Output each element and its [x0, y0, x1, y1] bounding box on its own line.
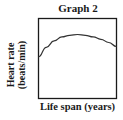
- heart-rate-curve: [39, 35, 117, 57]
- plot-frame: [39, 19, 117, 99]
- x-axis-label: Life span (years): [30, 101, 123, 112]
